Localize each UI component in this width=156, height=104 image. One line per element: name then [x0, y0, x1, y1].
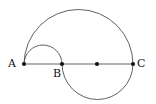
geometry-figure: A B C [0, 0, 156, 104]
point-dot-b [60, 62, 64, 66]
point-dot-c [131, 62, 135, 66]
point-dot-a [22, 62, 26, 66]
point-label-b: B [53, 68, 61, 79]
point-dot-midpoint [95, 62, 99, 66]
small-semicircle-AB-upper-arc [24, 45, 62, 64]
figure-canvas [0, 0, 156, 104]
point-label-a: A [8, 58, 16, 69]
semicircle-BC-lower-arc [62, 64, 133, 100]
large-semicircle-AC-upper-arc [24, 9, 133, 64]
point-label-c: C [137, 58, 145, 69]
